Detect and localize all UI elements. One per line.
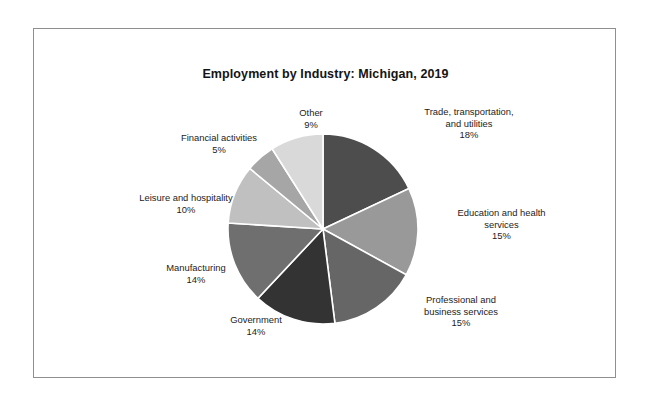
slice-label-line1: Education and health xyxy=(457,207,545,218)
slice-label-line1: Financial activities xyxy=(181,132,257,143)
slice-label-percent: 14% xyxy=(186,326,326,338)
slice-label-line1: Professional and xyxy=(426,294,496,305)
slice-label-other: Other 9% xyxy=(256,107,366,130)
slice-label-percent: 14% xyxy=(126,274,266,286)
slice-label-government: Government 14% xyxy=(186,314,326,337)
slice-label-percent: 9% xyxy=(256,119,366,131)
slice-label-line1: Trade, transportation, xyxy=(424,106,513,117)
slice-label-trade-transportation-and-utilities: Trade, transportation, and utilities 18% xyxy=(389,106,549,141)
chart-frame: Employment by Industry: Michigan, 2019 T… xyxy=(33,28,616,378)
slice-label-percent: 15% xyxy=(419,230,584,242)
slice-label-line1: Manufacturing xyxy=(166,262,225,273)
slice-label-line1: Leisure and hospitality xyxy=(139,192,232,203)
slice-label-percent: 10% xyxy=(106,204,266,216)
slice-label-line2: services xyxy=(484,219,518,230)
slice-label-line1: Other xyxy=(299,107,322,118)
slice-label-percent: 5% xyxy=(144,144,294,156)
slice-label-line1: Government xyxy=(230,314,282,325)
slice-label-education-and-health-services: Education and health services 15% xyxy=(419,207,584,242)
slice-label-line2: business services xyxy=(424,306,498,317)
slice-label-financial-activities: Financial activities 5% xyxy=(144,132,294,155)
slice-label-percent: 18% xyxy=(389,129,549,141)
slice-label-line2: and utilities xyxy=(446,118,493,129)
slice-label-leisure-and-hospitality: Leisure and hospitality 10% xyxy=(106,192,266,215)
slice-label-percent: 15% xyxy=(386,317,536,329)
slice-label-manufacturing: Manufacturing 14% xyxy=(126,262,266,285)
slice-label-professional-and-business-services: Professional and business services 15% xyxy=(386,294,536,329)
